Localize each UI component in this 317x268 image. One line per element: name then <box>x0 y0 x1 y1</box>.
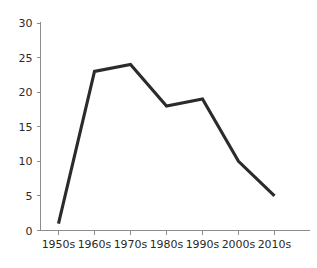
y-axis-tick-label: 5 <box>26 190 33 203</box>
y-axis-tick-label: 20 <box>19 86 33 99</box>
x-axis-tick-label: 1990s <box>186 238 220 251</box>
x-axis-tick-label: 1980s <box>150 238 184 251</box>
y-axis-tick-label: 15 <box>19 121 33 134</box>
chart-canvas: 051015202530 1950s1960s1970s1980s1990s20… <box>0 0 317 268</box>
y-axis-tick-label: 25 <box>19 52 33 65</box>
x-axis-tick-label: 1950s <box>42 238 76 251</box>
x-axis-tick-label: 2000s <box>222 238 256 251</box>
y-axis-tick-label: 0 <box>26 225 33 238</box>
chart-background <box>0 0 317 268</box>
line-chart: 051015202530 1950s1960s1970s1980s1990s20… <box>0 0 317 268</box>
x-axis-tick-label: 2010s <box>258 238 292 251</box>
y-axis-tick-label: 30 <box>19 17 33 30</box>
x-axis-tick-label: 1960s <box>78 238 112 251</box>
y-axis-tick-label: 10 <box>19 155 33 168</box>
x-axis-tick-label: 1970s <box>114 238 148 251</box>
